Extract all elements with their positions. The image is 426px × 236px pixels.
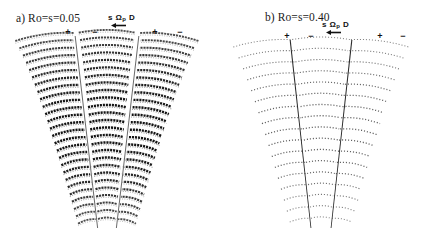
field-arc <box>136 57 188 65</box>
field-arc <box>136 55 188 63</box>
field-arc <box>91 135 123 137</box>
field-arc <box>89 115 126 117</box>
field-arc <box>124 154 155 160</box>
sector-divider <box>290 40 312 228</box>
field-arc <box>239 51 293 58</box>
panel-b: b) Ro=s=0.40 s Ωp D + − + − <box>213 0 426 236</box>
field-arc <box>298 82 344 84</box>
panel-a-label: a) Ro=s=0.05 <box>16 12 80 24</box>
field-arc <box>251 84 297 91</box>
field-arc <box>38 85 82 92</box>
field-arc <box>88 107 126 109</box>
field-arc <box>294 48 348 50</box>
field-arc <box>275 162 305 167</box>
field-arc <box>74 204 95 209</box>
field-arc <box>122 174 148 179</box>
field-arc <box>94 172 120 174</box>
field-arc <box>128 122 164 128</box>
panel-a-annotation: s Ωp D <box>108 13 135 22</box>
field-arc <box>125 145 157 151</box>
figure-canvas: a) Ro=s=0.05 s Ωp D + − + − b) Ro=s=0.40… <box>0 0 426 236</box>
field-arc <box>87 100 127 102</box>
field-arc <box>52 130 87 136</box>
field-arc <box>333 207 355 211</box>
field-arc <box>345 84 391 91</box>
field-arc <box>85 77 129 79</box>
field-arc <box>86 82 129 84</box>
field-arc <box>340 129 377 135</box>
field-arc <box>304 138 338 140</box>
field-arc <box>78 219 97 224</box>
field-arc <box>123 167 151 173</box>
field-arc <box>129 115 167 122</box>
field-arc <box>305 149 337 151</box>
field-arc <box>338 151 370 156</box>
field-arc <box>341 118 380 124</box>
field-arc <box>310 206 332 207</box>
field-arc <box>86 90 127 92</box>
field-arc <box>126 137 159 143</box>
field-arc <box>89 112 126 114</box>
field-arc <box>131 92 174 99</box>
field-arc <box>272 151 304 156</box>
field-arc <box>351 39 409 47</box>
field-arc <box>94 167 121 169</box>
field-arc <box>81 47 133 50</box>
field-arc <box>308 183 334 185</box>
field-arc <box>335 185 361 190</box>
field-arc <box>301 104 342 106</box>
field-arc <box>302 116 341 118</box>
field-arc <box>336 173 364 178</box>
field-arc <box>337 162 367 167</box>
field-arc <box>93 157 121 159</box>
field-arc <box>45 107 84 114</box>
field-arc <box>247 73 296 80</box>
field-arc <box>346 73 395 80</box>
panel-b-annotation: s Ωp D <box>322 20 349 29</box>
field-rows <box>15 30 198 226</box>
field-arc <box>339 140 373 146</box>
field-arc <box>84 70 130 72</box>
field-arc <box>258 106 299 112</box>
vector-field-b <box>227 38 415 230</box>
vector-field-a <box>12 34 202 230</box>
field-arc <box>91 137 123 139</box>
field-arc <box>97 203 118 205</box>
field-arc <box>84 67 130 69</box>
field-arc <box>88 105 126 107</box>
field-arc <box>95 182 119 184</box>
field-arc <box>83 62 131 65</box>
field-arc <box>86 85 129 87</box>
field-arc <box>307 172 335 174</box>
field-arc <box>233 39 291 47</box>
field-arc <box>92 152 122 154</box>
field-arc <box>94 165 121 167</box>
field-arc <box>92 142 123 144</box>
field-arc <box>243 62 294 69</box>
field-arc <box>290 218 310 222</box>
field-arc <box>344 95 387 101</box>
field-arc <box>95 190 118 192</box>
panel-a: a) Ro=s=0.05 s Ωp D + − + − <box>0 0 213 236</box>
field-arc <box>80 40 134 43</box>
field-arc <box>303 127 339 129</box>
field-arc <box>92 150 122 152</box>
field-arc <box>94 175 120 177</box>
field-arc <box>332 218 352 222</box>
field-arc <box>348 62 399 69</box>
field-arc <box>95 187 118 189</box>
field-arc <box>96 195 118 197</box>
field-arc <box>90 130 124 132</box>
field-arc <box>43 100 84 107</box>
field-rows <box>233 37 408 222</box>
field-arc <box>292 37 350 40</box>
field-arc <box>98 218 116 220</box>
field-arc <box>92 145 123 147</box>
field-arc <box>98 220 116 222</box>
field-arc <box>81 45 133 48</box>
field-arc <box>306 161 336 163</box>
field-arc <box>278 173 306 178</box>
field-arc <box>120 189 144 194</box>
field-arc <box>19 40 75 48</box>
field-arc <box>66 174 92 179</box>
